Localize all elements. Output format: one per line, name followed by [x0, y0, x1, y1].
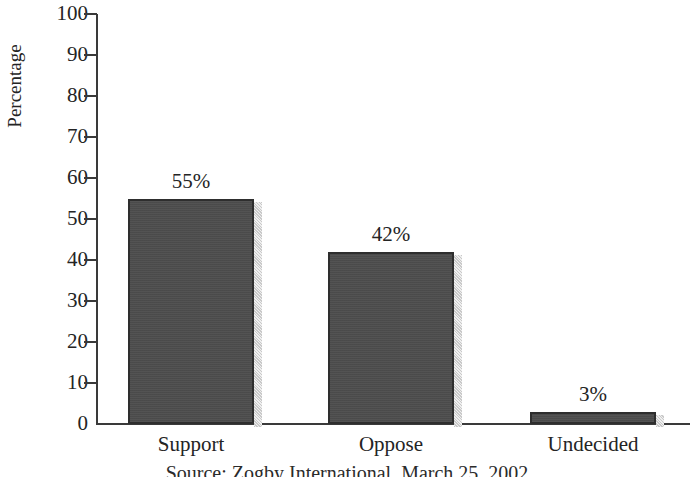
y-axis-tick-label: 40 [36, 249, 88, 270]
source-caption: Source: Zogby International, March 25, 2… [0, 461, 694, 477]
bar-value-label: 3% [579, 384, 607, 405]
bar-body[interactable] [128, 199, 254, 425]
bar-value-label: 42% [372, 224, 411, 245]
y-axis-tick-label: 90 [36, 44, 88, 65]
bar-shadow [656, 415, 664, 427]
x-axis-category-label: Support [91, 432, 291, 456]
y-axis-tick-label: 100 [36, 3, 88, 24]
y-axis-tick-label: 60 [36, 167, 88, 188]
y-axis-title: Percentage [2, 0, 28, 176]
y-axis-tick-label: 50 [36, 208, 88, 229]
y-axis-tick-label: 10 [36, 372, 88, 393]
bar-shadow [254, 202, 262, 428]
y-axis-tick-label: 70 [36, 126, 88, 147]
plot-area: 55%42%3% [98, 14, 690, 424]
bar-oppose[interactable]: 42% [328, 252, 454, 424]
bar-shadow [454, 255, 462, 427]
y-axis-tick-label: 0 [36, 413, 88, 434]
bar-value-label: 55% [172, 171, 211, 192]
bar-body[interactable] [328, 252, 454, 424]
y-axis-tick-label: 80 [36, 85, 88, 106]
y-axis-tick-label: 30 [36, 290, 88, 311]
y-axis-tick-label: 20 [36, 331, 88, 352]
bar-support[interactable]: 55% [128, 199, 254, 425]
y-axis-tick-labels: 1009080706050403020100 [34, 0, 88, 477]
x-axis-category-label: Oppose [291, 432, 491, 456]
x-axis-category-label: Undecided [493, 432, 693, 456]
bar-undecided[interactable]: 3% [530, 412, 656, 424]
bar-body[interactable] [530, 412, 656, 424]
chart-canvas: Percentage 1009080706050403020100 55%42%… [0, 0, 694, 477]
